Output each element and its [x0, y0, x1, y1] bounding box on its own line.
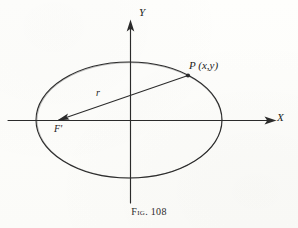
figure-drawing [0, 0, 298, 228]
figure-caption-number: 108 [151, 206, 167, 217]
focal-radius-segment [59, 76, 188, 121]
y-axis-label: Y [139, 7, 145, 18]
point-p-marker [186, 73, 190, 77]
point-p-label: P (x,y) [189, 60, 218, 71]
focus-label: F' [54, 124, 62, 134]
figure-caption: Fig. 108 [0, 206, 298, 217]
radius-label: r [96, 88, 100, 98]
figure-caption-prefix: Fig. [131, 206, 148, 217]
x-axis-label: X [277, 112, 284, 123]
figure-page: Y X P (x,y) F' r Fig. 108 [0, 0, 298, 228]
